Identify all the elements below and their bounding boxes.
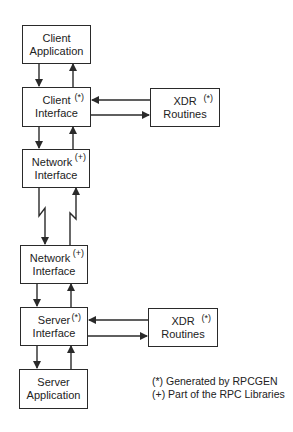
- box-label: Server: [37, 376, 69, 389]
- rpcgen-marker: (*): [204, 94, 214, 103]
- rpcgen-marker: (*): [75, 93, 85, 102]
- network-interface-bottom-box: Network Interface (+): [20, 245, 88, 284]
- box-label: Client: [42, 32, 70, 45]
- network-interface-top-box: Network Interface (+): [22, 149, 90, 188]
- xdr-routines-server-box: XDR Routines (*): [148, 308, 218, 347]
- legend: (*) Generated by RPCGEN (+) Part of the …: [152, 375, 285, 401]
- box-label: Interface: [35, 169, 78, 182]
- connector-arrows: [0, 0, 293, 432]
- xdr-routines-client-box: XDR Routines (*): [150, 88, 220, 127]
- box-label: Client: [42, 94, 70, 107]
- box-label: Interface: [33, 327, 76, 340]
- box-label: XDR: [171, 315, 194, 328]
- rpcgen-marker: (*): [202, 314, 212, 323]
- box-label: XDR: [173, 95, 196, 108]
- library-marker: (+): [75, 153, 86, 162]
- box-label: Application: [27, 389, 81, 402]
- server-interface-box: Server Interface (*): [20, 307, 88, 346]
- box-label: Routines: [161, 328, 204, 341]
- box-label: Application: [30, 45, 84, 58]
- box-label: Interface: [33, 265, 76, 278]
- box-label: Interface: [35, 107, 78, 120]
- client-application-box: Client Application: [22, 25, 91, 64]
- box-label: Routines: [163, 108, 206, 121]
- client-interface-box: Client Interface (*): [22, 87, 91, 127]
- legend-library: (+) Part of the RPC Libraries: [152, 388, 285, 401]
- box-label: Network: [30, 252, 70, 265]
- rpcgen-marker: (*): [72, 313, 82, 322]
- box-label: Server: [38, 314, 70, 327]
- library-marker: (+): [73, 249, 84, 258]
- box-label: Network: [32, 156, 72, 169]
- legend-rpcgen: (*) Generated by RPCGEN: [152, 375, 285, 388]
- server-application-box: Server Application: [19, 369, 88, 409]
